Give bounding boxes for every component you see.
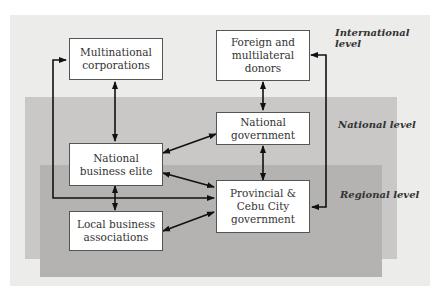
node-provincial-cebu-government: Provincial & Cebu City government — [216, 180, 310, 233]
node-multinational-corporations: Multinational corporations — [69, 38, 163, 80]
node-foreign-multilateral-donors: Foreign and multilateral donors — [216, 30, 310, 81]
node-national-business-elite: National business elite — [69, 143, 163, 186]
node-local-business-associations: Local business associations — [69, 211, 163, 251]
node-national-government: National government — [216, 112, 310, 145]
